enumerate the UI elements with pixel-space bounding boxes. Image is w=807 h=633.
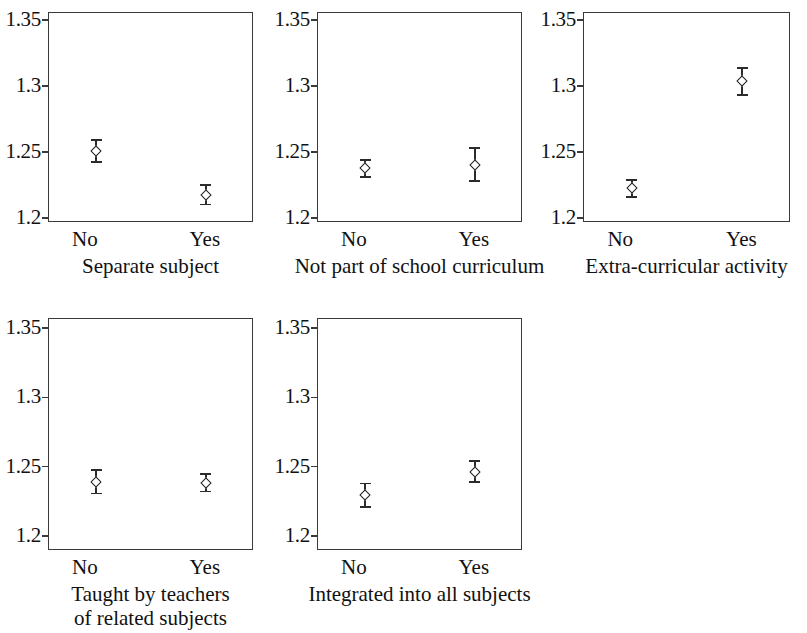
error-bar-cap-bottom	[469, 481, 480, 483]
error-bar-no	[356, 483, 374, 508]
panel-caption-integrated-into-all-subjects: Integrated into all subjects	[247, 582, 592, 606]
x-axis-tick-label-no: No	[304, 556, 404, 579]
y-axis-tick-mark	[311, 466, 318, 468]
panel-integrated-into-all-subjects: 1.351.31.251.2NoYesIntegrated into all s…	[0, 0, 807, 633]
data-point-marker	[469, 466, 480, 477]
error-bar-cap-top	[469, 460, 480, 462]
y-axis-tick-mark	[311, 327, 318, 329]
y-axis-tick-label: 1.3	[261, 386, 310, 407]
y-axis-tick-label: 1.35	[261, 317, 310, 338]
panel-caption-line1: Integrated into all subjects	[308, 582, 530, 606]
y-axis-tick-mark	[311, 535, 318, 537]
error-bar-cap-top	[360, 483, 371, 485]
error-bar-cap-bottom	[360, 506, 371, 508]
plot-frame	[317, 318, 522, 550]
y-axis-tick-mark	[311, 397, 318, 399]
multi-panel-error-bar-figure: 1.351.31.251.2NoYesSeparate subject1.351…	[0, 0, 807, 633]
y-axis-tick-label: 1.2	[261, 525, 310, 546]
data-point-marker	[360, 489, 371, 500]
error-bar-yes	[466, 460, 484, 482]
y-axis-tick-label: 1.25	[261, 456, 310, 477]
x-axis-tick-label-yes: Yes	[424, 556, 524, 579]
